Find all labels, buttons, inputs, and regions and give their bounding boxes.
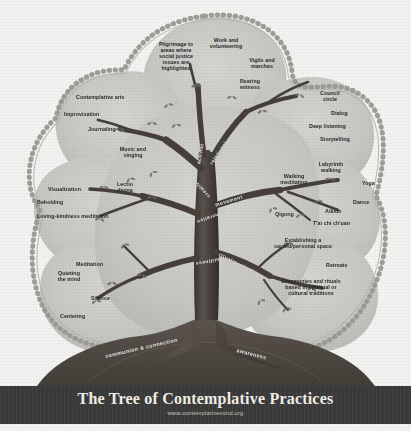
practice-bearing-witness: Bearing witness (240, 78, 260, 90)
practice-vigils-and-marches: Vigils and marches (249, 57, 274, 69)
page-title: The Tree of Contemplative Practices (0, 390, 411, 408)
practice-music-and-singing: Music and singing (120, 146, 146, 158)
practice-tai-chi-chuan: T'ai chi ch'uan (313, 220, 350, 226)
practice-beholding: Beholding (37, 199, 63, 205)
practice-storytelling: Storytelling (320, 136, 350, 142)
practice-improvisation: Improvisation (64, 111, 99, 117)
practice-retreats: Retreats (326, 262, 348, 268)
practice-qigong: Qigong (275, 211, 294, 217)
practice-quieting-the-mind: Quieting the mind (58, 270, 80, 282)
practice-visualization: Visualization (48, 186, 81, 192)
practice-loving-kindness-meditation: Loving-kindness meditation (37, 213, 109, 219)
tree-of-contemplative-practices-poster: activist relational creative movement ge… (0, 0, 411, 431)
practice-establishing-sacred-space: Establishing a sacred/personal space (274, 237, 332, 249)
practice-contemplative-arts: Contemplative arts (76, 94, 125, 100)
practice-dance: Dance (353, 199, 369, 205)
practice-journaling: Journaling (88, 126, 116, 132)
practice-centering: Centering (60, 313, 85, 319)
practice-silence: Silence (91, 295, 110, 301)
practice-labyrinth-walking: Labyrinth walking (319, 161, 344, 173)
practice-meditation: Meditation (76, 261, 103, 267)
practice-council-circle: Council circle (320, 90, 340, 102)
source-url: www.contemplativemind.org (0, 410, 411, 416)
practice-aikido: Aikido (325, 208, 342, 214)
practice-pilgrimage: Pilgrimage to areas where social justice… (159, 41, 193, 71)
practice-ceremonies-and-rituals: Ceremonies and rituals based in spiritua… (281, 278, 341, 296)
practice-yoga: Yoga (362, 180, 375, 186)
practice-walking-meditation: Walking meditation (280, 173, 307, 185)
practice-work-and-volunteering: Work and volunteering (210, 37, 242, 49)
poster-footer: The Tree of Contemplative Practices www.… (0, 386, 411, 424)
practice-dialog: Dialog (331, 110, 348, 116)
practice-lectio-divina: Lectio divina (117, 181, 133, 193)
practice-deep-listening: Deep listening (309, 123, 346, 129)
